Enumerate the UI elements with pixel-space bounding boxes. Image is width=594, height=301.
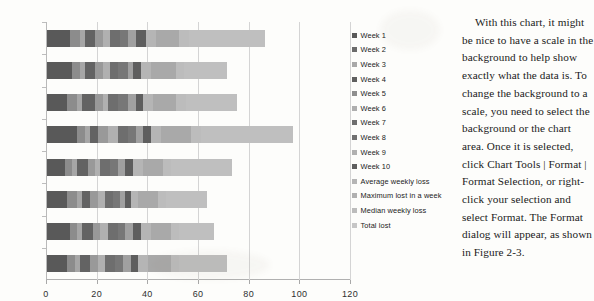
bar-segment	[98, 191, 106, 208]
bar-segment	[110, 30, 120, 47]
bar-segment	[148, 255, 171, 272]
bar-segment	[47, 126, 77, 143]
bar-segment	[95, 30, 103, 47]
bar-segment	[85, 30, 95, 47]
bar-segment	[47, 94, 67, 111]
bar-segment	[72, 62, 80, 79]
legend-item: Week 2	[352, 43, 456, 58]
bar-segment	[138, 255, 148, 272]
bar-segment	[143, 126, 151, 143]
bar-segment	[128, 126, 136, 143]
legend-swatch-icon	[352, 193, 357, 198]
bar-stack	[47, 223, 214, 240]
legend-swatch-icon	[352, 223, 357, 228]
x-tick-label: 40	[142, 289, 153, 299]
bar-segment	[171, 255, 179, 272]
x-tick-label: 120	[342, 289, 358, 299]
bar-segment	[47, 255, 67, 272]
legend-label: Total lost	[361, 221, 391, 230]
body-text-column: With this chart, it might be nice to hav…	[462, 14, 594, 262]
bar-segment	[179, 255, 227, 272]
legend-item: Week 1	[352, 28, 456, 43]
legend-item: Week 9	[352, 145, 456, 160]
legend-label: Week 4	[361, 75, 387, 84]
bar-stack	[47, 94, 237, 111]
gridline	[350, 22, 351, 280]
bar-segment	[151, 126, 161, 143]
y-tick-mark	[42, 119, 46, 120]
bar-stack	[47, 62, 227, 79]
bar-segment	[80, 255, 90, 272]
bar-segment	[136, 30, 146, 47]
bar-segment	[161, 126, 191, 143]
bar-stack	[47, 191, 207, 208]
bar-segment	[67, 255, 75, 272]
x-tick-label: 60	[193, 289, 204, 299]
x-tick-mark	[299, 280, 300, 284]
legend-item: Week 10	[352, 159, 456, 174]
bar-segment	[47, 223, 70, 240]
legend-swatch-icon	[352, 106, 357, 111]
legend-swatch-icon	[352, 179, 357, 184]
y-tick-mark	[42, 151, 46, 152]
y-tick-mark	[42, 183, 46, 184]
stacked-bar-chart: MichaelSarahLindaLarryHarryMaryJohnJane …	[0, 0, 350, 301]
legend-swatch-icon	[352, 164, 357, 169]
legend-item: Total lost	[352, 218, 456, 233]
legend-label: Week 9	[361, 148, 387, 157]
x-tick-mark	[350, 280, 351, 284]
x-tick-mark	[97, 280, 98, 284]
bar-segment	[85, 62, 95, 79]
bar-segment	[90, 126, 98, 143]
bar-segment	[47, 62, 72, 79]
bar-stack	[47, 126, 293, 143]
x-tick-mark	[147, 280, 148, 284]
legend-label: Week 5	[361, 89, 387, 98]
gridline	[249, 22, 250, 280]
legend-swatch-icon	[352, 47, 357, 52]
bar-segment	[108, 223, 118, 240]
legend-item: Week 3	[352, 57, 456, 72]
legend-item: Average weekly loss	[352, 174, 456, 189]
legend-item: Week 6	[352, 101, 456, 116]
bar-segment	[133, 159, 143, 176]
legend-swatch-icon	[352, 62, 357, 67]
legend-label: Week 10	[361, 162, 391, 171]
body-paragraph: With this chart, it might be nice to hav…	[462, 14, 594, 262]
bar-segment	[103, 62, 111, 79]
bar-segment	[88, 159, 96, 176]
bar-segment	[143, 94, 153, 111]
bar-segment	[105, 191, 113, 208]
bar-segment	[136, 94, 144, 111]
bar-segment	[163, 159, 171, 176]
bar-segment	[125, 223, 133, 240]
bar-segment	[95, 62, 103, 79]
bar-segment	[176, 62, 184, 79]
y-axis-line	[46, 22, 47, 280]
plot-area	[46, 22, 350, 280]
bar-segment	[120, 30, 128, 47]
bar-segment	[105, 255, 115, 272]
legend-label: Maximum lost in a week	[361, 191, 442, 200]
legend-item: Maximum lost in a week	[352, 189, 456, 204]
bar-segment	[110, 62, 118, 79]
y-tick-mark	[42, 22, 46, 23]
y-tick-mark	[42, 54, 46, 55]
legend-item: Week 8	[352, 130, 456, 145]
bar-segment	[82, 94, 95, 111]
bar-segment	[143, 159, 163, 176]
gridline	[147, 22, 148, 280]
bar-segment	[77, 159, 87, 176]
legend-item: Week 5	[352, 86, 456, 101]
bar-segment	[100, 223, 108, 240]
legend-label: Median weekly loss	[361, 206, 427, 215]
bar-segment	[179, 223, 214, 240]
bar-segment	[113, 191, 121, 208]
bar-segment	[93, 223, 101, 240]
bar-segment	[179, 30, 189, 47]
chart-legend: Week 1Week 2Week 3Week 4Week 5Week 6Week…	[352, 28, 456, 232]
x-tick-mark	[46, 280, 47, 284]
bar-segment	[146, 30, 156, 47]
bar-segment	[128, 94, 136, 111]
